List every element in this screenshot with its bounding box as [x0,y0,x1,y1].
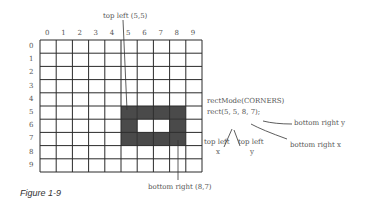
row-label: 7 [29,134,33,142]
arg-bottom-right-y: bottom right y [294,119,345,127]
arg-bottom-right-x: bottom right x [290,141,341,149]
column-label: 6 [142,29,146,37]
row-label: 2 [29,68,33,76]
row-label: 0 [29,42,33,50]
row-label: 3 [29,82,33,90]
row-label: 6 [29,121,33,129]
code-line-2: rect(5, 5, 8, 7); [207,108,260,116]
column-label: 3 [94,29,98,37]
row-label: 5 [29,108,33,116]
row-label: 1 [29,55,33,63]
column-label: 0 [45,29,49,37]
arg-top-left-x: top left [204,138,230,146]
bottom-right-label: bottom right (8,7) [148,183,212,191]
column-label: 1 [61,29,65,37]
arg-top-left-y: top left [238,138,264,146]
arg-top-left-y-sub: y [250,148,254,156]
column-label: 4 [110,29,114,37]
row-label: 4 [29,95,33,103]
figure-caption: Figure 1-9 [20,188,61,198]
code-line-1: rectMode(CORNERS) [207,97,284,105]
row-label: 8 [29,148,33,156]
column-label: 9 [191,29,195,37]
column-label: 2 [77,29,81,37]
column-label: 7 [158,29,162,37]
row-label: 9 [29,161,33,169]
arg-top-left-x-sub: x [216,148,220,156]
top-left-label: top left (5,5) [103,12,147,20]
column-label: 5 [126,29,130,37]
column-label: 8 [175,29,179,37]
